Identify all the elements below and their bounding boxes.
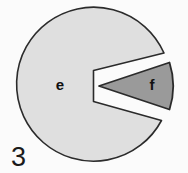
pie-slice-f[interactable] bbox=[99, 63, 173, 110]
figure-container: e f 3 bbox=[0, 0, 188, 173]
pie-chart-svg: e f 3 bbox=[0, 0, 188, 173]
pie-slice-label-e: e bbox=[56, 76, 64, 93]
figure-number: 3 bbox=[11, 142, 26, 172]
